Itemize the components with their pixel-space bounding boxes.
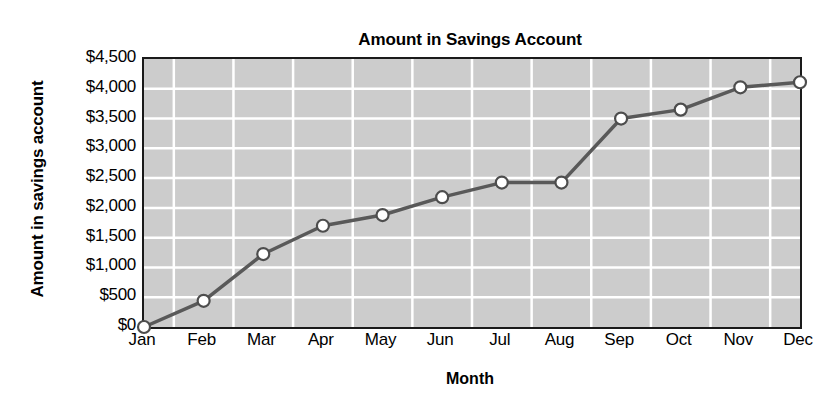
data-point-marker [675, 104, 687, 116]
y-tick-label: $1,000 [4, 255, 136, 275]
data-point-marker [436, 191, 448, 203]
data-point-marker [555, 177, 567, 189]
vertical-gridlines [174, 59, 770, 327]
data-point-marker [257, 248, 269, 260]
x-tick-label: Dec [758, 330, 838, 350]
x-axis-tick-labels: JanFebMarAprMayJunJulAugSepOctNovDec [142, 330, 798, 360]
data-point-marker [794, 76, 806, 88]
savings-account-line-chart: Amount in Savings Account Amount in savi… [0, 0, 838, 408]
data-point-marker [615, 113, 627, 125]
data-point-marker [198, 295, 210, 307]
y-tick-label: $3,500 [4, 107, 136, 127]
y-tick-label: $500 [4, 285, 136, 305]
data-point-marker [317, 220, 329, 232]
y-tick-label: $3,000 [4, 136, 136, 156]
data-point-marker [377, 209, 389, 221]
chart-title: Amount in Savings Account [142, 30, 798, 50]
y-tick-label: $1,500 [4, 226, 136, 246]
y-tick-label: $4,500 [4, 47, 136, 67]
x-axis-title: Month [142, 370, 798, 388]
y-tick-label: $2,500 [4, 166, 136, 186]
y-tick-label: $2,000 [4, 196, 136, 216]
data-point-marker [734, 81, 746, 93]
y-tick-label: $4,000 [4, 77, 136, 97]
plot-area [142, 57, 802, 329]
plot-svg [144, 59, 800, 327]
data-point-marker [496, 177, 508, 189]
